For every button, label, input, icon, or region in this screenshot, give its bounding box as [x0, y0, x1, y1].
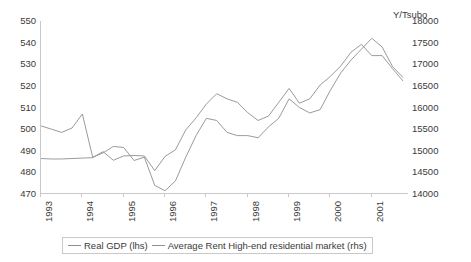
- legend-swatch-real-gdp: [68, 245, 81, 246]
- y-right-tick-label: 14500: [412, 167, 438, 177]
- x-tick-mark: [329, 194, 330, 197]
- y-right-tick-label: 14000: [412, 189, 438, 199]
- plot-area: [40, 21, 408, 194]
- y-right-tick-label: 15000: [412, 146, 438, 156]
- y-right-tick-label: 16500: [412, 81, 438, 91]
- y-right-tick-label: 17000: [412, 59, 438, 69]
- legend-swatch-average-rent: [152, 245, 165, 246]
- x-tick-mark: [81, 194, 82, 197]
- x-tick-label: 1998: [251, 201, 261, 222]
- y-left-tick-label: 500: [20, 124, 36, 134]
- x-tick-label: 1994: [85, 201, 95, 222]
- x-tick-label: 2001: [375, 201, 385, 222]
- series-line-real-gdp: [41, 38, 403, 190]
- x-tick-mark: [247, 194, 248, 197]
- y-left-tick-label: 530: [20, 59, 36, 69]
- x-tick-mark: [123, 194, 124, 197]
- x-tick-label: 1993: [44, 201, 54, 222]
- chart-container: Y/Tsubo 470480490500510520530540550 1400…: [0, 0, 471, 262]
- x-tick-label: 1996: [168, 201, 178, 222]
- x-tick-label: 1995: [127, 201, 137, 222]
- x-tick-mark: [288, 194, 289, 197]
- chart-legend: Real GDP (lhs) Average Rent High-end res…: [62, 237, 373, 254]
- x-tick-label: 1997: [209, 201, 219, 222]
- y-left-tick-label: 490: [20, 146, 36, 156]
- y-left-tick-label: 550: [20, 16, 36, 26]
- legend-label-real-gdp: Real GDP (lhs): [84, 240, 148, 251]
- y-right-tick-label: 16000: [412, 103, 438, 113]
- y-left-tick-label: 510: [20, 103, 36, 113]
- y-left-tick-label: 520: [20, 81, 36, 91]
- y-right-tick-label: 17500: [412, 38, 438, 48]
- y-left-tick-label: 540: [20, 38, 36, 48]
- y-right-tick-label: 18000: [412, 16, 438, 26]
- x-tick-label: 1999: [292, 201, 302, 222]
- series-lines: [41, 21, 409, 194]
- x-tick-mark: [164, 194, 165, 197]
- x-tick-mark: [371, 194, 372, 197]
- y-left-tick-label: 470: [20, 189, 36, 199]
- x-tick-mark: [40, 194, 41, 197]
- y-left-tick-label: 480: [20, 167, 36, 177]
- left-axis: 470480490500510520530540550: [0, 0, 36, 262]
- legend-item-real-gdp: Real GDP (lhs): [68, 240, 148, 251]
- y-right-tick-label: 15500: [412, 124, 438, 134]
- right-axis: 1400014500150001550016000165001700017500…: [412, 0, 468, 262]
- x-tick-mark: [205, 194, 206, 197]
- legend-label-average-rent: Average Rent High-end residential market…: [168, 240, 367, 251]
- legend-item-average-rent: Average Rent High-end residential market…: [152, 240, 367, 251]
- x-tick-label: 2000: [333, 201, 343, 222]
